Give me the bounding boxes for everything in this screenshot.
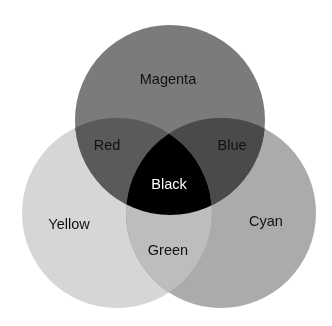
label-red: Red xyxy=(94,137,121,153)
label-yellow: Yellow xyxy=(48,216,90,232)
label-black: Black xyxy=(151,176,187,192)
label-blue: Blue xyxy=(217,137,246,153)
label-green: Green xyxy=(148,242,188,258)
label-cyan: Cyan xyxy=(249,213,283,229)
label-magenta: Magenta xyxy=(140,71,197,87)
venn-diagram: MagentaYellowCyanRedBlueBlackGreen xyxy=(0,0,332,326)
